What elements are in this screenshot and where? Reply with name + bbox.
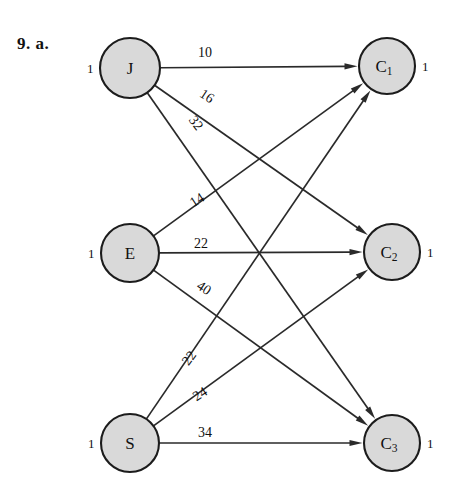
node-label-s: S — [125, 434, 134, 453]
demand-value-c3: 1 — [427, 436, 434, 451]
node-e[interactable]: E1 — [88, 224, 159, 282]
edge-weight-s-c1: 22 — [179, 348, 199, 368]
assignment-network-figure: 9. a. J1E1S1C11C21C31 101632142240222434 — [0, 0, 449, 483]
node-label-j: J — [127, 59, 134, 78]
arrowhead-icon — [349, 249, 362, 255]
arrowhead-icon — [344, 63, 357, 69]
edge-weight-e-c1: 14 — [187, 190, 207, 210]
node-label-e: E — [125, 244, 135, 263]
edge-weight-s-c3: 34 — [198, 425, 212, 440]
edge-weight-e-c2: 22 — [194, 236, 208, 251]
edge-weight-j-c1: 10 — [198, 45, 212, 60]
bipartite-graph-canvas: J1E1S1C11C21C31 101632142240222434 — [0, 0, 449, 483]
node-c1[interactable]: C11 — [359, 38, 429, 94]
edges-layer — [147, 63, 375, 446]
edge-weight-e-c3: 40 — [194, 278, 214, 298]
edge-s-to-c3 — [160, 440, 363, 446]
edge-weight-labels-layer: 101632142240222434 — [179, 45, 217, 440]
edge-weight-j-c3: 32 — [186, 113, 206, 133]
supply-value-j: 1 — [87, 61, 94, 76]
supply-value-e: 1 — [88, 246, 95, 261]
node-c2[interactable]: C21 — [364, 224, 434, 280]
arrowhead-icon — [355, 225, 367, 235]
arrowhead-icon — [360, 90, 370, 102]
demand-value-c1: 1 — [422, 59, 429, 74]
edge-weight-j-c2: 16 — [197, 86, 217, 106]
node-j[interactable]: J1 — [87, 38, 160, 98]
edge-j-to-c3 — [147, 93, 375, 419]
edge-j-to-c1 — [160, 63, 357, 69]
arrowhead-icon — [365, 406, 375, 418]
arrowhead-icon — [350, 440, 363, 446]
demand-value-c2: 1 — [427, 245, 434, 260]
node-c3[interactable]: C31 — [364, 415, 434, 471]
node-s[interactable]: S1 — [88, 414, 159, 472]
supply-value-s: 1 — [88, 436, 95, 451]
